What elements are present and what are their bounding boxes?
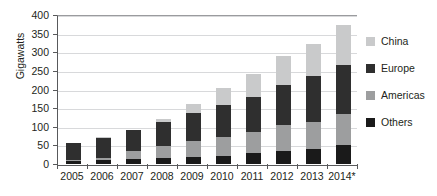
bar-segment-europe[interactable]: [246, 97, 261, 132]
legend-item[interactable]: Others: [366, 117, 425, 128]
bar-series-group: [58, 16, 357, 164]
bar-segment-others[interactable]: [216, 156, 231, 164]
y-axis-tick-label: 200: [19, 85, 49, 96]
legend-swatch-others: [366, 118, 375, 127]
bar-column[interactable]: [306, 44, 321, 164]
y-axis-tick-label: 400: [19, 10, 49, 21]
bar-segment-others[interactable]: [246, 153, 261, 164]
bar-segment-others[interactable]: [66, 161, 81, 164]
bar-segment-europe[interactable]: [156, 122, 171, 146]
x-axis-tick-label: 2005: [57, 170, 87, 182]
bar-segment-americas[interactable]: [336, 114, 351, 145]
bar-segment-china[interactable]: [246, 74, 261, 96]
x-axis-tick-mark: [147, 164, 148, 169]
y-axis-tick-label: 0: [19, 159, 49, 170]
x-axis-tick-label: 2011: [237, 170, 267, 182]
legend-item[interactable]: China: [366, 36, 425, 47]
legend-item-label: Europe: [381, 63, 415, 74]
x-axis-tick-mark: [87, 164, 88, 169]
chart-legend: ChinaEuropeAmericasOthers: [366, 36, 425, 128]
bar-segment-europe[interactable]: [186, 113, 201, 142]
x-axis-tick-mark: [237, 164, 238, 169]
x-axis-tick-mark: [177, 164, 178, 169]
bar-segment-americas[interactable]: [156, 146, 171, 158]
stacked-bar-chart: Gigawatts 050100150200250300350400 20052…: [0, 0, 437, 196]
bar-segment-china[interactable]: [276, 56, 291, 84]
bar-segment-europe[interactable]: [126, 130, 141, 151]
bar-column[interactable]: [186, 104, 201, 164]
x-axis-tick-mark: [207, 164, 208, 169]
legend-item-label: China: [381, 36, 408, 47]
bar-column[interactable]: [246, 74, 261, 164]
y-axis-tick-label: 100: [19, 122, 49, 133]
y-axis-tick-label: 300: [19, 47, 49, 58]
x-axis-tick-label: 2013: [297, 170, 327, 182]
x-axis-tick-label: 2009: [177, 170, 207, 182]
legend-swatch-china: [366, 37, 375, 46]
x-axis-tick-label: 2010: [207, 170, 237, 182]
bar-segment-americas[interactable]: [216, 137, 231, 156]
bar-segment-europe[interactable]: [66, 143, 81, 160]
bar-column[interactable]: [156, 119, 171, 164]
bar-segment-europe[interactable]: [216, 105, 231, 137]
legend-item[interactable]: Americas: [366, 90, 425, 101]
bar-column[interactable]: [66, 143, 81, 164]
bar-segment-europe[interactable]: [96, 138, 111, 158]
y-axis-tick-label: 350: [19, 29, 49, 40]
x-axis-tick-mark: [117, 164, 118, 169]
bar-segment-china[interactable]: [186, 104, 201, 113]
legend-swatch-americas: [366, 91, 375, 100]
bar-segment-americas[interactable]: [186, 141, 201, 157]
x-axis-tick-label: 2008: [147, 170, 177, 182]
legend-item-label: Others: [381, 117, 413, 128]
x-axis-tick-mark: [57, 164, 58, 169]
bar-segment-americas[interactable]: [246, 132, 261, 154]
bar-segment-others[interactable]: [306, 149, 321, 164]
x-axis-tick-mark: [357, 164, 358, 169]
bar-column[interactable]: [216, 88, 231, 164]
bar-segment-china[interactable]: [306, 44, 321, 77]
x-axis-tick-label: 2012: [267, 170, 297, 182]
bar-column[interactable]: [126, 130, 141, 164]
bar-column[interactable]: [276, 56, 291, 164]
x-axis-tick-label: 2007: [117, 170, 147, 182]
y-axis-tick-label: 50: [19, 140, 49, 151]
x-axis-tick-label: 2014*: [327, 170, 357, 182]
bar-segment-others[interactable]: [336, 145, 351, 164]
y-axis-tick-label: 250: [19, 66, 49, 77]
bar-segment-europe[interactable]: [306, 76, 321, 122]
bar-segment-others[interactable]: [276, 151, 291, 164]
bar-segment-europe[interactable]: [276, 85, 291, 125]
plot-area: [57, 15, 357, 164]
bar-column[interactable]: [336, 25, 351, 164]
y-axis-tick-label: 150: [19, 103, 49, 114]
bar-segment-americas[interactable]: [306, 122, 321, 149]
legend-swatch-europe: [366, 64, 375, 73]
x-axis-tick-label: 2006: [87, 170, 117, 182]
bar-segment-americas[interactable]: [276, 125, 291, 151]
bar-segment-china[interactable]: [216, 88, 231, 105]
legend-item-label: Americas: [381, 90, 425, 101]
x-axis-tick-mark: [297, 164, 298, 169]
x-axis-tick-mark: [327, 164, 328, 169]
bar-segment-americas[interactable]: [126, 151, 141, 158]
x-axis-tick-mark: [267, 164, 268, 169]
bar-segment-others[interactable]: [96, 160, 111, 164]
bar-segment-others[interactable]: [156, 158, 171, 164]
legend-item[interactable]: Europe: [366, 63, 425, 74]
bar-segment-others[interactable]: [186, 157, 201, 164]
bar-segment-europe[interactable]: [336, 65, 351, 114]
bar-column[interactable]: [96, 137, 111, 164]
bar-segment-china[interactable]: [336, 25, 351, 65]
bar-segment-others[interactable]: [126, 159, 141, 164]
